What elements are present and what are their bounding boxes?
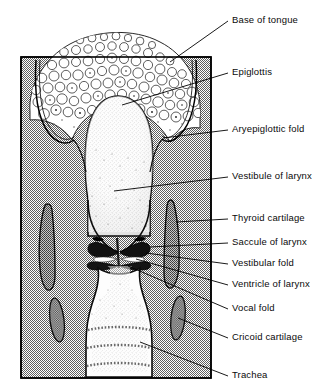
label-epiglottis: Epiglottis — [232, 66, 272, 77]
label-aryepiglottic-fold: Aryepiglottic fold — [232, 123, 304, 134]
label-ventricle-of-larynx: Ventricle of larynx — [232, 278, 310, 289]
label-vestibule-of-larynx: Vestibule of larynx — [232, 170, 312, 181]
epiglottis-structure — [84, 96, 158, 238]
label-thyroid-cartilage: Thyroid cartilage — [232, 212, 305, 223]
label-trachea: Trachea — [232, 369, 268, 380]
label-base-of-tongue: Base of tongue — [232, 14, 298, 25]
label-saccule-of-larynx: Saccule of larynx — [232, 236, 307, 247]
label-vestibular-fold: Vestibular fold — [232, 257, 294, 268]
label-cricoid-cartilage: Cricoid cartilage — [232, 331, 303, 342]
label-vocal-fold: Vocal fold — [232, 302, 275, 313]
